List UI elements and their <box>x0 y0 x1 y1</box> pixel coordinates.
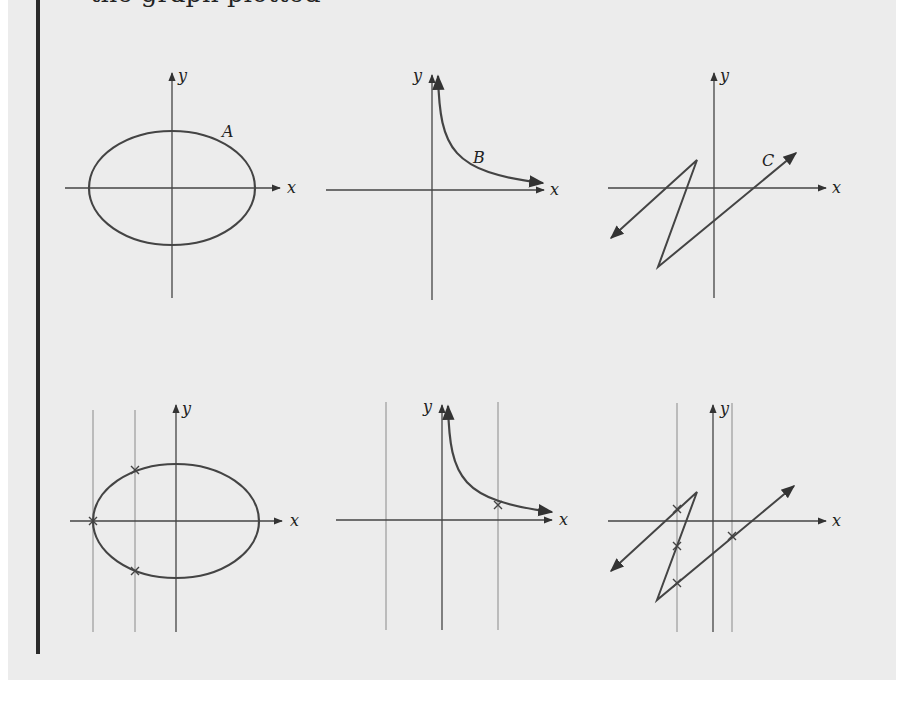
x-axis-label: x <box>287 178 296 197</box>
y-axis-label: y <box>719 399 730 418</box>
graph-b-vertical-test: x y <box>336 397 568 630</box>
y-axis-label: y <box>422 397 433 416</box>
graph-a: x y A <box>65 66 296 298</box>
hyperbola-curve <box>438 76 543 183</box>
x-axis-label: x <box>832 178 841 197</box>
curve-label-c: C <box>762 151 774 170</box>
y-axis-label: y <box>177 66 188 85</box>
y-axis-label: y <box>412 66 423 85</box>
x-axis-label: x <box>559 510 568 529</box>
curve-label-a: A <box>220 122 234 141</box>
x-axis-label: x <box>832 511 841 530</box>
curve-label-b: B <box>472 148 485 167</box>
hyperbola-curve <box>448 406 552 512</box>
x-axis-label: x <box>550 180 559 199</box>
graph-a-vertical-test: x y <box>70 399 299 632</box>
x-axis-label: x <box>290 511 299 530</box>
z-polyline-curve <box>611 153 796 267</box>
graph-c-vertical-test: x y <box>608 399 841 632</box>
y-axis-label: y <box>719 66 730 85</box>
z-polyline-curve <box>611 486 794 600</box>
y-axis-label: y <box>181 399 192 418</box>
vertical-line-test-figure: x y A x y B x y C x y <box>0 0 901 703</box>
graph-b: x y B <box>326 66 559 300</box>
graph-c: x y C <box>608 66 841 298</box>
intersection-marks <box>673 505 736 587</box>
